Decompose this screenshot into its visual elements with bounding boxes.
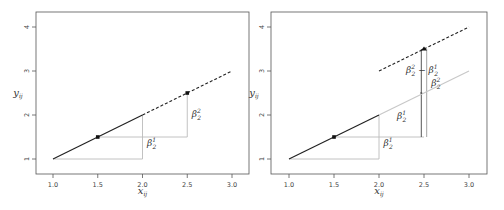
x-tick-label: 2.5 [419, 181, 429, 189]
right-panel: 1.01.52.02.53.01234xijyijβ12β12β22β22 − … [248, 12, 487, 198]
x-tick-label: 1.0 [284, 181, 294, 189]
y-tick-label: 1 [258, 157, 266, 161]
left-panel: 1.01.52.02.53.01234xijyijβ12β22 [12, 12, 249, 198]
y-axis-label: yij [12, 87, 23, 100]
x-tick-label: 1.5 [329, 181, 339, 189]
y-tick-label: 2 [258, 113, 266, 117]
data-point-small [420, 92, 422, 94]
beta-annotation: β12 [146, 136, 157, 150]
beta-annotation: β12 [383, 136, 394, 150]
data-point [185, 91, 189, 95]
x-tick-label: 1.5 [93, 181, 103, 189]
y-tick-label: 4 [258, 25, 266, 29]
beta-annotation: β22 − β12 [405, 63, 438, 77]
figure: 1.01.52.02.53.01234xijyijβ12β22 1.01.52.… [0, 0, 504, 210]
y-tick-label: 1 [23, 157, 31, 161]
beta-annotation: β22 [430, 76, 441, 90]
beta-annotation: β12 [396, 109, 407, 123]
y-tick-label: 2 [23, 113, 31, 117]
x-tick-label: 2.5 [182, 181, 192, 189]
x-tick-label: 3.0 [464, 181, 474, 189]
y-tick-label: 3 [23, 69, 31, 73]
data-point [332, 135, 336, 139]
y-tick-label: 3 [258, 69, 266, 73]
beta-annotation: β22 [191, 107, 202, 121]
series-segment-2-gray [379, 71, 469, 115]
x-tick-label: 1.0 [48, 181, 58, 189]
y-tick-label: 4 [23, 25, 31, 29]
x-tick-label: 3.0 [227, 181, 237, 189]
y-axis-label: yij [248, 87, 259, 100]
data-point [96, 135, 100, 139]
